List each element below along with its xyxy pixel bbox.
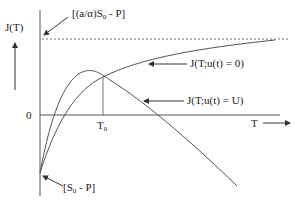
curve-u0-label: J(T;u(t) = 0) xyxy=(190,58,244,69)
curve-u-equals-U xyxy=(40,71,237,186)
y-axis-label: J(T) xyxy=(5,22,23,33)
t0-label: T0 xyxy=(97,120,107,133)
diagram-canvas xyxy=(0,0,295,207)
origin-label: 0 xyxy=(26,110,32,121)
x-axis-label: T xyxy=(251,118,258,129)
curve-uU-label: J(T;u(t) = U) xyxy=(187,95,243,106)
intercept-pointer-icon xyxy=(43,176,63,186)
asymptote-label: [(a/α)S0 - P] xyxy=(72,8,125,21)
asymptote-pointer-icon xyxy=(44,17,68,35)
intercept-label: [S0 - P] xyxy=(63,182,95,195)
